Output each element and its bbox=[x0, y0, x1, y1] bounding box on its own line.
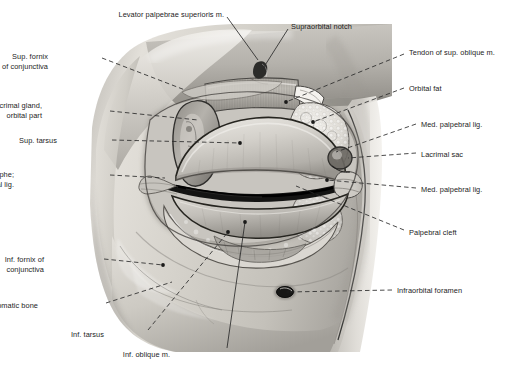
label-line: Tendon of sup. oblique m. bbox=[409, 48, 495, 58]
label-line: Lat. palpebral raphe; bbox=[0, 170, 14, 180]
label-line: orbital part bbox=[0, 111, 42, 121]
label-line: Med. palpebral lig. bbox=[421, 185, 482, 195]
label-inf-tarsus: Inf. tarsus bbox=[71, 330, 104, 340]
label-supraorbital-notch: Supraorbital notch bbox=[291, 22, 352, 32]
anatomical-figure: Levator palpebrae superioris m.Supraorbi… bbox=[0, 0, 519, 367]
label-line: Lat. palpebral lig. bbox=[0, 180, 14, 190]
label-med-palpebral-lig-upper: Med. palpebral lig. bbox=[421, 120, 482, 130]
label-line: Sup. tarsus bbox=[19, 136, 57, 146]
label-zygomatic-bone: Zygomatic bone bbox=[0, 301, 38, 311]
label-line: Inf. oblique m. bbox=[123, 350, 170, 360]
label-orbital-fat: Orbital fat bbox=[409, 84, 442, 94]
label-line: Infraorbital foramen bbox=[397, 286, 462, 296]
label-line: Inf. fornix of bbox=[5, 255, 44, 265]
label-line: conjunctiva bbox=[5, 265, 44, 275]
label-line: Med. palpebral lig. bbox=[421, 120, 482, 130]
label-line: Lacrimal sac bbox=[421, 150, 463, 160]
label-line: Zygomatic bone bbox=[0, 301, 38, 311]
label-med-palpebral-lig-lower: Med. palpebral lig. bbox=[421, 185, 482, 195]
label-line: Lacrimal gland, bbox=[0, 101, 42, 111]
label-palpebral-cleft: Palpebral cleft bbox=[409, 228, 457, 238]
label-levator-palpebrae-superioris: Levator palpebrae superioris m. bbox=[119, 10, 224, 20]
label-lat-palpebral-raphe-lig: Lat. palpebral raphe;Lat. palpebral lig. bbox=[0, 170, 14, 189]
label-lacrimal-gland-orbital-part: Lacrimal gland,orbital part bbox=[0, 101, 42, 120]
label-inf-fornix-of-conjunctiva: Inf. fornix ofconjunctiva bbox=[5, 255, 44, 274]
label-tendon-of-sup-oblique-m: Tendon of sup. oblique m. bbox=[409, 48, 495, 58]
label-sup-tarsus: Sup. tarsus bbox=[19, 136, 57, 146]
label-line: Sup. fornix bbox=[2, 52, 48, 62]
label-infraorbital-foramen: Infraorbital foramen bbox=[397, 286, 462, 296]
label-line: Orbital fat bbox=[409, 84, 442, 94]
label-inf-oblique-m: Inf. oblique m. bbox=[123, 350, 170, 360]
label-line: Inf. tarsus bbox=[71, 330, 104, 340]
label-line: Levator palpebrae superioris m. bbox=[119, 10, 224, 20]
label-sup-fornix-of-conjunctiva: Sup. fornixof conjunctiva bbox=[2, 52, 48, 71]
infraorbital-foramen bbox=[274, 285, 296, 300]
label-line: Supraorbital notch bbox=[291, 22, 352, 32]
label-line: Palpebral cleft bbox=[409, 228, 457, 238]
label-line: of conjunctiva bbox=[2, 62, 48, 72]
label-lacrimal-sac: Lacrimal sac bbox=[421, 150, 463, 160]
